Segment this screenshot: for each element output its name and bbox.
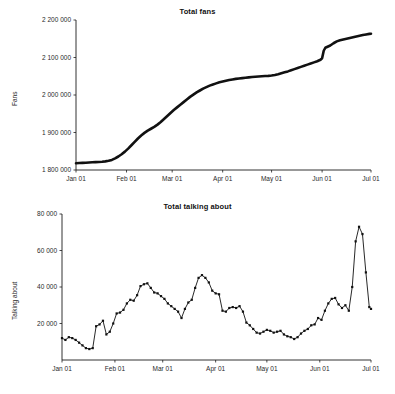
data-point-marker (218, 293, 220, 295)
data-point-marker (300, 332, 302, 334)
data-point-marker (208, 281, 210, 283)
y-tick-label: 1 800 000 (42, 166, 71, 173)
data-point-marker (249, 324, 251, 326)
data-point-marker (194, 287, 196, 289)
data-point-marker (293, 338, 295, 340)
data-point-marker (146, 282, 148, 284)
data-point-marker (303, 330, 305, 332)
data-point-marker (296, 336, 298, 338)
data-point-marker (317, 317, 319, 319)
data-point-marker (355, 240, 357, 242)
data-point-marker (276, 331, 278, 333)
data-point-marker (361, 233, 363, 235)
data-point-marker (102, 320, 104, 322)
data-point-marker (160, 295, 162, 297)
y-tick-label: 60 000 (37, 247, 57, 254)
data-point-marker (163, 298, 165, 300)
data-point-marker (68, 336, 70, 338)
data-point-marker (129, 299, 131, 301)
data-point-marker (71, 337, 73, 339)
series-line (76, 34, 371, 164)
data-point-marker (204, 277, 206, 279)
data-point-marker (153, 291, 155, 293)
data-point-marker (259, 332, 261, 334)
data-point-marker (95, 325, 97, 327)
y-tick-label: 40 000 (37, 283, 57, 290)
x-tick-label: Mar 01 (162, 175, 183, 182)
data-point-marker (116, 312, 118, 314)
chart-total-talking-about: Total talking about Talking about 20 000… (0, 196, 395, 394)
data-point-marker (245, 321, 247, 323)
data-point-marker (232, 306, 234, 308)
data-point-marker (105, 333, 107, 335)
data-point-marker (337, 303, 339, 305)
data-point-marker (215, 292, 217, 294)
data-point-marker (358, 226, 360, 228)
data-point-marker (262, 331, 264, 333)
data-point-marker (341, 307, 343, 309)
data-point-marker (290, 336, 292, 338)
data-point-marker (334, 297, 336, 299)
data-point-marker (365, 271, 367, 273)
data-point-marker (221, 310, 223, 312)
y-tick-label: 2 100 000 (42, 54, 71, 61)
data-point-marker (307, 328, 309, 330)
data-point-marker (273, 332, 275, 334)
data-point-marker (191, 299, 193, 301)
data-point-marker (184, 308, 186, 310)
data-point-marker (122, 309, 124, 311)
data-point-marker (133, 300, 135, 302)
series-line (62, 227, 371, 349)
data-point-marker (187, 301, 189, 303)
data-point-marker (283, 333, 285, 335)
x-tick-label: Apr 01 (206, 365, 226, 373)
data-point-marker (180, 317, 182, 319)
data-point-marker (139, 285, 141, 287)
data-point-marker (314, 323, 316, 325)
y-tick-label: 1 900 000 (42, 129, 71, 136)
data-point-marker (126, 302, 128, 304)
y-tick-label: 2 000 000 (42, 91, 71, 98)
data-point-marker (136, 294, 138, 296)
data-point-marker (256, 332, 258, 334)
x-tick-label: Feb 01 (116, 175, 137, 182)
chart-page: Total fans Fans 1 800 0001 900 0002 000 … (0, 0, 395, 394)
data-point-marker (225, 311, 227, 313)
x-tick-label: Mar 01 (153, 365, 174, 372)
data-point-marker (327, 302, 329, 304)
data-point-marker (228, 307, 230, 309)
data-point-marker (88, 348, 90, 350)
data-point-marker (177, 311, 179, 313)
chart-total-fans: Total fans Fans 1 800 0001 900 0002 000 … (0, 0, 395, 196)
data-point-marker (201, 274, 203, 276)
plot-area-total-talking-about: 20 00040 00060 00080 000Jan 01Feb 01Mar … (0, 196, 395, 394)
x-tick-label: Jul 01 (362, 365, 380, 372)
data-point-marker (331, 298, 333, 300)
data-point-marker (252, 328, 254, 330)
data-point-marker (167, 302, 169, 304)
data-point-marker (85, 347, 87, 349)
data-point-marker (266, 329, 268, 331)
data-point-marker (324, 310, 326, 312)
data-point-marker (98, 323, 100, 325)
data-point-marker (235, 307, 237, 309)
data-point-marker (348, 310, 350, 312)
y-tick-label: 2 200 000 (42, 16, 71, 23)
x-tick-label: Jan 01 (66, 175, 86, 182)
data-point-marker (61, 337, 63, 339)
x-tick-label: Apr 01 (213, 175, 233, 183)
data-point-marker (81, 344, 83, 346)
data-point-marker (351, 286, 353, 288)
data-point-marker (344, 304, 346, 306)
y-tick-label: 20 000 (37, 320, 57, 327)
x-tick-label: Jul 01 (362, 175, 380, 182)
x-tick-label: Feb 01 (105, 365, 126, 372)
data-point-marker (143, 283, 145, 285)
x-tick-label: Jun 01 (312, 175, 332, 182)
data-point-marker (197, 277, 199, 279)
data-point-marker (92, 347, 94, 349)
data-point-marker (211, 290, 213, 292)
data-point-marker (109, 331, 111, 333)
data-point-marker (310, 324, 312, 326)
data-point-marker (370, 308, 372, 310)
